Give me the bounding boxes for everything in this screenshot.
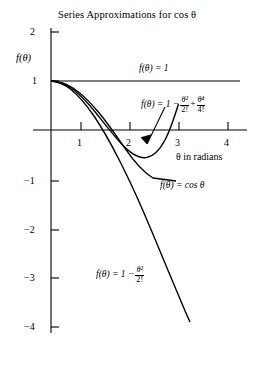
curve-second-order (51, 81, 190, 322)
arrow-to-fourth-order-curve (141, 107, 165, 144)
plot-area (0, 0, 255, 365)
curve-cosine (51, 81, 176, 181)
y-tick-marks (51, 32, 59, 327)
chart-figure: Series Approximations for cos θ f(θ) θ i… (0, 0, 255, 365)
